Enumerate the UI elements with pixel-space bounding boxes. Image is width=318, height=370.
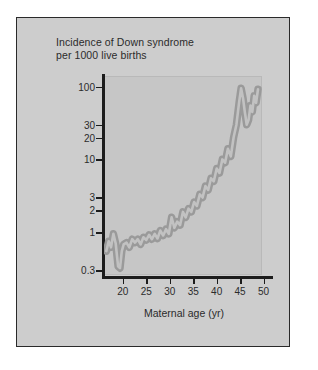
x-tick-45 (240, 278, 242, 284)
y-tick-label-1: 1 (89, 227, 95, 238)
y-tick-label-2: 2 (89, 205, 95, 216)
x-tick-label-20: 20 (117, 286, 128, 297)
y-tick-1 (96, 232, 103, 234)
y-tick-label-100: 100 (78, 81, 95, 92)
y-tick-20 (96, 138, 103, 140)
x-axis-title: Maternal age (yr) (104, 307, 264, 319)
y-tick-label-3: 3 (89, 192, 95, 203)
incidence-curve (104, 76, 262, 275)
x-tick-label-30: 30 (164, 286, 175, 297)
y-tick-0.3 (96, 270, 103, 272)
x-tick-label-45: 45 (235, 286, 246, 297)
x-tick-20 (123, 278, 125, 284)
y-tick-2 (96, 210, 103, 212)
x-tick-30 (170, 278, 172, 284)
y-tick-label-20: 20 (84, 132, 95, 143)
x-axis-line (102, 276, 273, 279)
x-tick-label-35: 35 (188, 286, 199, 297)
figure-root: Incidence of Down syndrome per 1000 live… (0, 0, 318, 370)
x-tick-40 (217, 278, 219, 284)
y-tick-3 (96, 197, 103, 199)
x-tick-25 (146, 278, 148, 284)
y-tick-100 (96, 87, 103, 89)
x-tick-35 (193, 278, 195, 284)
y-tick-label-30: 30 (84, 119, 95, 130)
x-tick-label-50: 50 (258, 286, 269, 297)
y-tick-label-0.3: 0.3 (81, 265, 95, 276)
data-curve-layer (104, 76, 262, 275)
y-axis-labels: 0.3123102030100 (58, 0, 95, 370)
y-tick-10 (96, 159, 103, 161)
x-tick-label-25: 25 (141, 286, 152, 297)
x-tick-label-40: 40 (211, 286, 222, 297)
y-tick-label-10: 10 (84, 154, 95, 165)
x-tick-50 (264, 278, 266, 284)
y-tick-30 (96, 125, 103, 127)
